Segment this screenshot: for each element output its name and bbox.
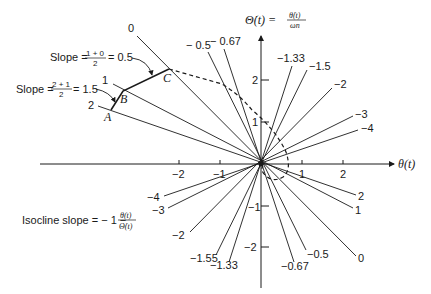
- isocline-label-lower: −0.5: [307, 248, 329, 260]
- slope-annotation-1-numerator: 1 + 0: [86, 49, 105, 58]
- y-tick-label: 2: [252, 74, 258, 86]
- isocline-label-lower: −3: [152, 204, 165, 216]
- slope-annotation-1-prefix: Slope =: [50, 51, 88, 63]
- y-tick-label: 1: [252, 116, 258, 128]
- isocline-formula-denominator: Θ̇(t): [119, 222, 133, 231]
- isocline-label-lower: −0.67: [281, 260, 309, 272]
- phase-plane-diagram: −2 −1 1 2 2 1 −1 −2 θ(t) Θ̇(t) = θ̇(t) ω…: [0, 0, 431, 294]
- isocline-line: [98, 106, 356, 195]
- y-tick-label: −1: [248, 201, 261, 213]
- isocline-formula-numerator: θ(t): [120, 211, 132, 220]
- slope-annotation-2-prefix: Slope =: [16, 83, 54, 95]
- phase-plane-svg: −2 −1 1 2 2 1 −1 −2 θ(t) Θ̇(t) = θ̇(t) ω…: [0, 0, 431, 294]
- isocline-label-upper: −2: [334, 78, 347, 90]
- y-axis-label: Θ̇(t) =: [245, 13, 276, 27]
- slope-annotation-1-result: = 0.5: [108, 51, 133, 63]
- isocline-label-upper: 0: [128, 22, 134, 34]
- slope-annotation-1-denominator: 2: [93, 59, 98, 68]
- y-axis-label-denominator: ωn: [290, 21, 300, 30]
- isocline-label-upper: −3: [355, 108, 368, 120]
- slope-annotation-2-denominator: 2: [59, 90, 64, 99]
- point-a-label: A: [103, 110, 112, 124]
- slope-annotation-2-numerator: 2 + 1: [52, 80, 71, 89]
- isocline-label-lower: −4: [147, 191, 160, 203]
- point-c-label: C: [163, 71, 172, 85]
- x-axis-label: θ(t): [398, 157, 415, 171]
- isocline-label-lower: 0: [358, 252, 364, 264]
- x-tick-label: 2: [340, 168, 346, 180]
- x-tick-label: 1: [299, 168, 305, 180]
- isocline-label-upper: 1: [102, 74, 108, 86]
- x-tick-label: −2: [172, 168, 185, 180]
- y-axis-label-numerator: θ̇(t): [289, 11, 301, 20]
- isocline-label-upper: −1.33: [277, 52, 305, 64]
- isocline-label-lower: −1.55: [190, 252, 218, 264]
- isocline-label-upper: − 0.67: [210, 35, 241, 47]
- isocline-label-upper: 2: [88, 99, 94, 111]
- y-tick-label: −2: [244, 241, 257, 253]
- point-b-label: B: [120, 92, 128, 106]
- isocline-formula-prefix: Isocline slope = − 1 −: [22, 214, 126, 226]
- isocline-label-upper: − 0.5: [186, 39, 211, 51]
- isocline-label-lower: 2: [358, 190, 364, 202]
- slope-annotation-1-arrow: [132, 58, 152, 75]
- x-tick-label: −1: [213, 168, 226, 180]
- slope-annotation-2-arrow: [96, 89, 115, 102]
- isocline-label-upper: −4: [361, 122, 374, 134]
- slope-annotation-2-result: = 1.5: [73, 83, 98, 95]
- isocline-label-lower: 1: [355, 204, 361, 216]
- origin-point: [259, 162, 264, 167]
- isocline-label-lower: −2: [172, 229, 185, 241]
- isocline-label-upper: −1.5: [309, 60, 331, 72]
